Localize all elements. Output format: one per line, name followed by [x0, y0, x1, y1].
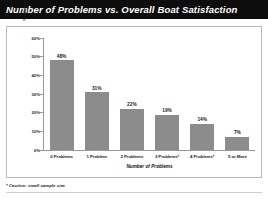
bar-slot[interactable]: 14% [186, 38, 219, 150]
bar[interactable] [225, 137, 249, 150]
x-axis-line [43, 150, 255, 151]
y-axis-ticks: 60%50%40%30%20%10%0% [20, 38, 42, 150]
x-axis-tick-label: 0 Problems [45, 154, 78, 163]
bar[interactable] [155, 115, 179, 150]
y-axis-tick-label: 20% [31, 109, 40, 116]
footer-divider [6, 192, 262, 193]
x-axis-tick-label: 3 Problems* [151, 154, 184, 163]
x-axis-title: Number of Problems [44, 164, 255, 169]
bar-slot[interactable]: 19% [151, 38, 184, 150]
y-axis-tick-label: 50% [31, 53, 40, 60]
y-axis-title: % achieving 10 for Overall Satisfaction [19, 0, 29, 40]
y-axis-tick-label: 0% [34, 147, 40, 154]
y-axis-tick-label: 40% [31, 72, 40, 79]
footnote: * Caution: small sample size [6, 183, 65, 188]
x-axis-tick-label: 1 Problem [80, 154, 113, 163]
bar-chart: % achieving 10 for Overall Satisfaction … [8, 32, 260, 174]
bar-slot[interactable]: 7% [221, 38, 254, 150]
bar[interactable] [120, 109, 144, 150]
y-axis-tick-label: 60% [31, 35, 40, 42]
bar-value-label: 7% [221, 130, 254, 135]
bar-value-label: 14% [186, 117, 219, 122]
bar-value-label: 19% [151, 108, 184, 113]
bar[interactable] [50, 60, 74, 150]
y-axis-tick-label: 10% [31, 128, 40, 135]
x-axis-tick-label: 2 Problems [115, 154, 148, 163]
bar-slot[interactable]: 31% [80, 38, 113, 150]
bar-value-label: 22% [115, 102, 148, 107]
bar[interactable] [190, 124, 214, 150]
bar-value-label: 48% [45, 54, 78, 59]
x-axis-tick-label: 4 Problems* [186, 154, 219, 163]
x-axis-tick-label: 5 or More [221, 154, 254, 163]
y-axis-tick-label: 30% [31, 91, 40, 98]
x-axis-tick-labels: 0 Problems1 Problem2 Problems3 Problems*… [44, 154, 255, 163]
bar[interactable] [85, 92, 109, 150]
page-title: Number of Problems vs. Overall Boat Sati… [0, 4, 238, 15]
bar-value-label: 31% [80, 86, 113, 91]
title-banner: Number of Problems vs. Overall Boat Sati… [0, 0, 268, 19]
bar-slot[interactable]: 48% [45, 38, 78, 150]
bar-series: 48%31%22%19%14%7% [44, 38, 255, 150]
bar-slot[interactable]: 22% [115, 38, 148, 150]
